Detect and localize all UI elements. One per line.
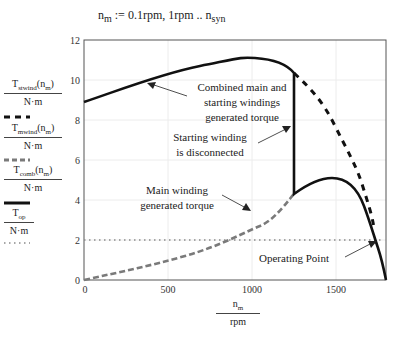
svg-text:4: 4 (75, 195, 80, 206)
svg-text:Operating Point: Operating Point (259, 252, 329, 264)
svg-text:generated torque: generated torque (205, 111, 279, 123)
svg-text:Starting winding: Starting winding (173, 131, 247, 143)
annotation-operating-point: Operating Point (259, 241, 377, 264)
svg-text:generated torque: generated torque (140, 199, 214, 211)
svg-text:6: 6 (75, 155, 80, 166)
annotation-disconnect: Starting winding is disconnected (173, 126, 291, 158)
svg-text:8: 8 (75, 115, 80, 126)
svg-text:1000: 1000 (242, 284, 262, 295)
svg-text:10: 10 (70, 75, 80, 86)
svg-text:12: 12 (70, 35, 80, 46)
annotation-main: Main winding generated torque (140, 184, 251, 211)
x-tick-labels: 0 500 1000 1500 (83, 284, 347, 295)
svg-text:starting windings: starting windings (204, 96, 280, 108)
svg-text:Main winding: Main winding (146, 184, 209, 196)
x-axis-label-num: nm (216, 298, 260, 314)
svg-text:Combined main and: Combined main and (197, 81, 287, 93)
series-stwind (294, 73, 374, 228)
grid (84, 40, 386, 280)
x-axis-label: nm rpm (216, 298, 260, 327)
x-axis-label-den: rpm (216, 314, 260, 327)
y-tick-labels: 0 2 4 6 8 10 12 (70, 35, 80, 286)
torque-speed-chart: 0 2 4 6 8 10 12 0 500 1000 1500 Combined… (0, 0, 401, 338)
svg-text:2: 2 (75, 235, 80, 246)
svg-text:is disconnected: is disconnected (176, 146, 244, 158)
svg-text:0: 0 (83, 284, 88, 295)
svg-text:1500: 1500 (326, 284, 346, 295)
svg-text:500: 500 (161, 284, 176, 295)
svg-text:0: 0 (75, 275, 80, 286)
